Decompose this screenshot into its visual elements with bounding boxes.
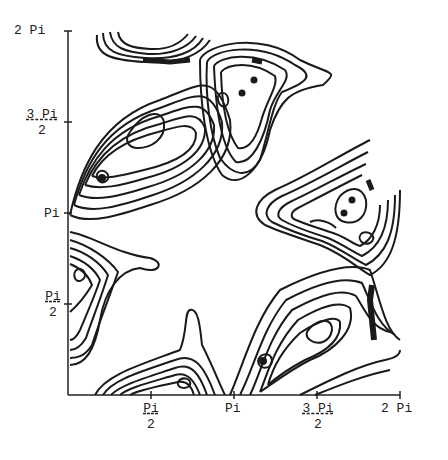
y-tick-label-pi-half: Pi 2 — [42, 290, 64, 319]
x-tick-3pi-half-denominator: 2 — [296, 418, 340, 431]
y-tick-pi-half-numerator: Pi — [42, 290, 64, 303]
x-tick-label-pi: Pi — [225, 402, 241, 415]
y-tick-label-pi: Pi — [44, 207, 60, 220]
x-tick-pi-half-numerator: Pi — [140, 402, 162, 415]
x-tick-label-2pi: 2 Pi — [381, 402, 412, 415]
y-tick-3pi-half-denominator: 2 — [20, 124, 64, 137]
y-tick-label-2pi: 2 Pi — [14, 24, 45, 37]
contour-plot — [0, 0, 448, 460]
x-tick-3pi-half-numerator: 3 Pi — [296, 402, 340, 415]
y-tick-3pi-half-numerator: 3 Pi — [20, 108, 64, 121]
x-tick-label-pi-half: Pi 2 — [140, 402, 162, 431]
x-tick-label-3pi-half: 3 Pi 2 — [296, 402, 340, 431]
contour-lines — [70, 32, 400, 395]
y-tick-pi-half-denominator: 2 — [42, 306, 64, 319]
y-tick-label-3pi-half: 3 Pi 2 — [20, 108, 64, 137]
x-tick-pi-half-denominator: 2 — [140, 418, 162, 431]
